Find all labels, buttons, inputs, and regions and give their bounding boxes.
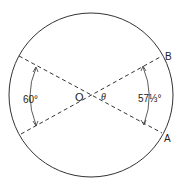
theta-label: θ: [101, 91, 106, 102]
circle-diagram: 60° 57⅓° O θ B A: [0, 0, 180, 187]
center-label-O: O: [75, 91, 84, 103]
point-label-B: B: [165, 51, 172, 62]
right-angle-label: 57⅓°: [138, 93, 161, 104]
point-label-A: A: [164, 133, 171, 144]
left-angle-label: 60°: [23, 94, 38, 105]
